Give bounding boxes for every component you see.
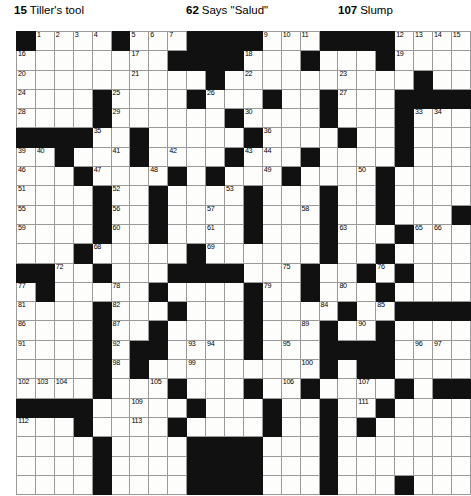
crossword-cell[interactable] — [281, 360, 300, 379]
crossword-cell[interactable] — [224, 398, 243, 417]
crossword-cell[interactable] — [319, 147, 338, 166]
crossword-cell[interactable] — [243, 167, 262, 186]
crossword-cell[interactable] — [111, 475, 130, 494]
crossword-cell[interactable] — [73, 147, 92, 166]
crossword-cell[interactable] — [451, 147, 470, 166]
crossword-cell[interactable]: 105 — [149, 379, 168, 398]
crossword-cell[interactable] — [432, 128, 451, 147]
crossword-cell[interactable] — [414, 417, 433, 436]
crossword-cell[interactable] — [224, 224, 243, 243]
crossword-cell[interactable]: 60 — [111, 224, 130, 243]
crossword-cell[interactable] — [376, 475, 395, 494]
crossword-cell[interactable] — [432, 147, 451, 166]
crossword-cell[interactable] — [414, 437, 433, 456]
crossword-cell[interactable] — [395, 417, 414, 436]
crossword-cell[interactable] — [149, 51, 168, 70]
crossword-cell[interactable] — [262, 456, 281, 475]
crossword-cell[interactable] — [206, 282, 225, 301]
crossword-cell[interactable] — [376, 437, 395, 456]
crossword-cell[interactable] — [243, 89, 262, 108]
crossword-cell[interactable]: 10 — [281, 32, 300, 51]
crossword-cell[interactable] — [300, 398, 319, 417]
crossword-cell[interactable] — [187, 167, 206, 186]
crossword-cell[interactable]: 85 — [376, 302, 395, 321]
crossword-cell[interactable] — [281, 321, 300, 340]
crossword-cell[interactable] — [414, 167, 433, 186]
crossword-cell[interactable]: 16 — [17, 51, 36, 70]
crossword-cell[interactable] — [262, 109, 281, 128]
crossword-cell[interactable] — [262, 263, 281, 282]
crossword-cell[interactable] — [149, 128, 168, 147]
crossword-cell[interactable] — [149, 89, 168, 108]
crossword-cell[interactable]: 6 — [149, 32, 168, 51]
crossword-cell[interactable]: 104 — [54, 379, 73, 398]
crossword-cell[interactable] — [35, 205, 54, 224]
crossword-cell[interactable] — [395, 186, 414, 205]
crossword-cell[interactable]: 14 — [432, 32, 451, 51]
crossword-cell[interactable] — [130, 186, 149, 205]
crossword-cell[interactable]: 75 — [281, 263, 300, 282]
crossword-cell[interactable] — [149, 302, 168, 321]
crossword-cell[interactable] — [319, 167, 338, 186]
crossword-cell[interactable] — [376, 417, 395, 436]
crossword-cell[interactable] — [35, 186, 54, 205]
crossword-cell[interactable] — [35, 224, 54, 243]
crossword-cell[interactable] — [73, 302, 92, 321]
crossword-cell[interactable] — [451, 244, 470, 263]
crossword-cell[interactable] — [149, 263, 168, 282]
crossword-cell[interactable] — [73, 263, 92, 282]
crossword-cell[interactable] — [54, 51, 73, 70]
crossword-cell[interactable] — [35, 417, 54, 436]
crossword-cell[interactable] — [73, 205, 92, 224]
crossword-cell[interactable] — [17, 456, 36, 475]
crossword-cell[interactable] — [414, 147, 433, 166]
crossword-cell[interactable] — [300, 167, 319, 186]
crossword-cell[interactable] — [73, 456, 92, 475]
crossword-cell[interactable] — [224, 282, 243, 301]
crossword-cell[interactable] — [357, 109, 376, 128]
crossword-cell[interactable] — [338, 244, 357, 263]
crossword-cell[interactable]: 2 — [54, 32, 73, 51]
crossword-cell[interactable] — [111, 398, 130, 417]
crossword-cell[interactable]: 113 — [130, 417, 149, 436]
crossword-cell[interactable]: 47 — [92, 167, 111, 186]
crossword-cell[interactable] — [432, 437, 451, 456]
crossword-cell[interactable]: 90 — [357, 321, 376, 340]
crossword-cell[interactable]: 84 — [319, 302, 338, 321]
crossword-cell[interactable] — [187, 379, 206, 398]
crossword-cell[interactable] — [281, 244, 300, 263]
crossword-cell[interactable] — [300, 186, 319, 205]
crossword-cell[interactable]: 30 — [243, 109, 262, 128]
crossword-cell[interactable] — [395, 205, 414, 224]
crossword-cell[interactable]: 59 — [17, 224, 36, 243]
crossword-cell[interactable] — [35, 456, 54, 475]
crossword-cell[interactable] — [168, 437, 187, 456]
crossword-cell[interactable] — [281, 475, 300, 494]
crossword-cell[interactable] — [281, 282, 300, 301]
crossword-cell[interactable] — [187, 205, 206, 224]
crossword-cell[interactable]: 111 — [357, 398, 376, 417]
crossword-cell[interactable]: 13 — [414, 32, 433, 51]
crossword-cell[interactable] — [300, 224, 319, 243]
crossword-cell[interactable] — [17, 244, 36, 263]
crossword-cell[interactable] — [54, 109, 73, 128]
crossword-cell[interactable] — [281, 186, 300, 205]
crossword-cell[interactable] — [149, 109, 168, 128]
crossword-cell[interactable] — [73, 186, 92, 205]
crossword-cell[interactable]: 89 — [300, 321, 319, 340]
crossword-cell[interactable]: 63 — [338, 224, 357, 243]
crossword-cell[interactable] — [357, 456, 376, 475]
crossword-cell[interactable]: 81 — [17, 302, 36, 321]
crossword-cell[interactable] — [168, 109, 187, 128]
crossword-cell[interactable] — [35, 167, 54, 186]
crossword-cell[interactable] — [92, 282, 111, 301]
crossword-cell[interactable] — [54, 205, 73, 224]
crossword-cell[interactable] — [300, 128, 319, 147]
crossword-cell[interactable] — [300, 70, 319, 89]
crossword-cell[interactable] — [395, 167, 414, 186]
crossword-cell[interactable] — [300, 340, 319, 359]
crossword-cell[interactable] — [54, 186, 73, 205]
crossword-cell[interactable] — [243, 398, 262, 417]
crossword-cell[interactable] — [376, 147, 395, 166]
crossword-cell[interactable]: 102 — [17, 379, 36, 398]
